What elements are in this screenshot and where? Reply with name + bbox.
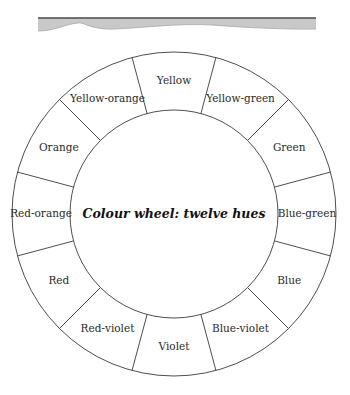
- sector-divider: [18, 241, 74, 256]
- sector-divider: [59, 99, 100, 140]
- hue-label-red: Red: [48, 274, 69, 286]
- decorative-banner: [38, 18, 316, 31]
- sector-divider: [274, 172, 330, 187]
- hue-label-yellow: Yellow: [156, 74, 191, 86]
- hue-label-blue-violet: Blue-violet: [212, 322, 270, 334]
- hue-label-yellow-green: Yellow-green: [205, 92, 275, 104]
- sector-divider: [201, 58, 216, 114]
- hue-label-blue: Blue: [277, 274, 301, 286]
- hue-label-green: Green: [273, 141, 306, 153]
- sector-divider: [274, 241, 330, 256]
- hue-label-orange: Orange: [39, 141, 79, 153]
- colour-wheel-figure: YellowYellow-greenGreenBlue-greenBlueBlu…: [0, 0, 350, 395]
- hue-label-red-violet: Red-violet: [81, 322, 136, 334]
- sector-divider: [248, 99, 289, 140]
- banner-fill: [38, 18, 316, 31]
- hue-label-violet: Violet: [158, 340, 191, 352]
- hue-label-red-orange: Red-orange: [10, 207, 72, 219]
- hue-label-blue-green: Blue-green: [278, 207, 337, 219]
- sector-divider: [132, 58, 147, 114]
- colour-wheel: YellowYellow-greenGreenBlue-greenBlueBlu…: [10, 52, 336, 376]
- wheel-title: Colour wheel: twelve hues: [83, 206, 266, 221]
- hue-label-yellow-orange: Yellow-orange: [69, 92, 145, 104]
- sector-divider: [18, 172, 74, 187]
